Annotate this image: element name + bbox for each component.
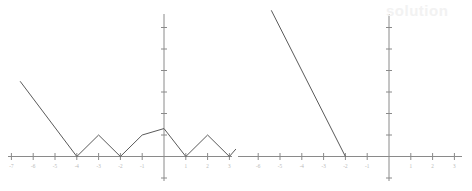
x-tick-label: -2: [118, 163, 123, 169]
left-curve-group: [20, 81, 236, 156]
left-tick-marks-group: [11, 28, 229, 179]
x-tick-label: -6: [256, 163, 261, 169]
data-series-line: [20, 81, 236, 156]
x-tick-label: 2: [431, 163, 434, 169]
left-tick-labels-group: -7-6-5-4-3-2-1123: [9, 163, 231, 169]
x-tick-label: -5: [278, 163, 283, 169]
x-tick-label: -2: [343, 163, 348, 169]
x-tick-label: 3: [228, 163, 231, 169]
x-tick-label: 3: [453, 163, 456, 169]
right-graph-svg: -6-5-4-3-2-1123: [236, 0, 472, 191]
x-tick-label: -1: [140, 163, 145, 169]
x-tick-label: -5: [53, 163, 58, 169]
x-tick-label: 2: [206, 163, 209, 169]
x-tick-label: -4: [75, 163, 80, 169]
x-tick-label: 1: [185, 163, 188, 169]
x-tick-label: -7: [9, 163, 14, 169]
data-series-line: [271, 10, 345, 156]
x-tick-label: -1: [365, 163, 370, 169]
x-tick-label: -4: [300, 163, 305, 169]
x-tick-label: 1: [410, 163, 413, 169]
right-curve-group: [271, 10, 345, 156]
right-tick-marks-group: [258, 28, 454, 179]
right-axes-group: [238, 14, 462, 181]
x-tick-label: -6: [31, 163, 36, 169]
right-tick-labels-group: -6-5-4-3-2-1123: [256, 163, 456, 169]
right-graph-panel: -6-5-4-3-2-1123: [236, 0, 472, 191]
x-tick-label: -3: [96, 163, 101, 169]
left-graph-svg: -7-6-5-4-3-2-1123: [0, 0, 236, 191]
x-tick-label: -3: [321, 163, 326, 169]
left-graph-panel: -7-6-5-4-3-2-1123: [0, 0, 236, 191]
figure-root: -7-6-5-4-3-2-1123 -6-5-4-3-2-1123 soluti…: [0, 0, 472, 191]
